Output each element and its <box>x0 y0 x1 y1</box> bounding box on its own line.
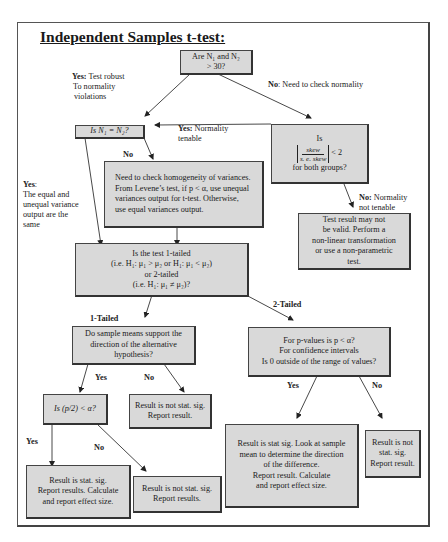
label-no-normality-text2: not tenable <box>359 203 395 212</box>
label-yes-normality-text1: Normality <box>193 124 229 133</box>
node-not-sig-half-p: Result is not stat. sig. Report results. <box>133 476 222 513</box>
label-no-bold: No <box>268 80 278 89</box>
label-no-half-p: No <box>94 443 104 453</box>
node-levene-line2: From Levene’s test, if p < α, use unequa… <box>115 184 249 195</box>
node-sig-one-tailed: Result is stat. sig. Report results. Cal… <box>26 465 131 519</box>
label-yes-normality-bold: Yes: <box>178 124 193 133</box>
node-tailed-line3: or 2-tailed <box>145 270 179 281</box>
node-sig-1-line2: Report results. Calculate <box>38 486 119 497</box>
node-skew-line1: Is <box>317 134 323 145</box>
label-yes-equal-n: Yes: The equal and unequal variance outp… <box>23 180 79 230</box>
node-not-sig-direction: Result is not stat. sig. Report result. <box>129 394 212 429</box>
node-sig-2-line4: Report result. Calculate <box>253 471 331 482</box>
node-not-valid-line1: Test result may not <box>323 215 385 226</box>
node-sig-1-line1: Result is stat. sig. <box>49 476 107 487</box>
label-no-normality: No: Normality not tenable <box>359 193 407 213</box>
label-yes-two-tailed: Yes <box>287 381 299 391</box>
node-levene-line4: use equal variances output. <box>115 205 204 216</box>
node-direction-line2: direction of the alternative <box>90 340 177 351</box>
node-not-sig-1-line2: Report result. <box>148 411 193 422</box>
label-yes-equal-n-text5: same <box>23 220 40 229</box>
node-not-valid-line3: non-linear transformation <box>312 236 396 247</box>
node-tailed-line1: Is the test 1-tailed <box>132 249 190 260</box>
label-no-check-normality: No: Need to check normality <box>268 80 363 90</box>
node-sample-size-line1: Are N₁ and N₂ <box>192 52 240 63</box>
node-half-p: Is (p/2) < α? <box>43 394 108 425</box>
node-two-tailed-line3: Is 0 outside of the range of values? <box>262 357 376 368</box>
node-not-sig-1-line1: Result is not stat. sig. <box>135 401 205 412</box>
node-levene: Need to check homogeneity of variances. … <box>104 161 264 228</box>
label-yes-equal-n-bold: Yes <box>23 180 35 189</box>
label-one-tailed: 1-Tailed <box>90 314 118 324</box>
node-levene-line1: Need to check homogeneity of variances. <box>115 173 251 184</box>
node-equal-n-text: Is N₁ = N₂? <box>90 126 128 137</box>
skew-fraction: skew s. e. skew <box>300 146 326 163</box>
label-yes-direction: Yes <box>95 373 107 383</box>
node-two-tailed-line2: For confidence intervals <box>279 346 359 357</box>
label-no-two-tailed: No <box>372 381 382 391</box>
node-direction-line3: hypothesis? <box>114 350 153 361</box>
label-yes-robust-bold: Yes: <box>72 72 87 81</box>
label-yes-normality-text2: tenable <box>178 134 202 143</box>
node-not-sig-two-tailed: Result is not stat. sig. Report result. <box>365 430 421 478</box>
node-sig-two-tailed: Result is stat sig. Look at sample mean … <box>225 424 359 508</box>
node-sig-2-line5: and report effect size. <box>256 481 327 492</box>
label-yes-robust: Yes: Test robust To normality violations <box>72 72 125 102</box>
node-tailed-line4: (i.e. H₁: μ₁ ≠ μ₂)? <box>133 280 190 291</box>
node-sample-size: Are N₁ and N₂ > 30? <box>180 50 253 75</box>
node-two-tailed-line1: For p-values is p < α? <box>283 336 354 347</box>
node-not-sig-2-line1: Result is not stat. sig. <box>142 484 212 495</box>
node-levene-line3: variances output for t-test. Otherwise, <box>115 194 239 205</box>
skew-absolute-value: skew s. e. skew <box>297 145 329 163</box>
node-not-sig-3-line3: Report result. <box>370 459 415 470</box>
node-sig-2-line2: mean to determine the direction <box>239 450 343 461</box>
node-skew-line3: for both groups? <box>292 163 346 174</box>
skew-numerator: skew <box>302 146 324 155</box>
label-no-normality-text1: Normality <box>372 193 408 202</box>
node-sample-size-line2: > 30? <box>207 62 226 73</box>
node-not-sig-2-line2: Report results. <box>153 494 201 505</box>
node-sig-1-line3: and report effect size. <box>43 497 114 508</box>
label-no-normality-bold: No: <box>359 193 372 202</box>
node-direction: Do sample means support the direction of… <box>72 326 196 365</box>
label-two-tailed: 2-Tailed <box>273 300 301 310</box>
node-not-valid-line4: or use a non-parametric <box>315 246 393 257</box>
node-two-tailed-question: For p-values is p < α? For confidence in… <box>248 327 391 377</box>
node-skew-check: Is skew s. e. skew < 2 for both groups? <box>271 124 369 184</box>
node-sig-2-line1: Result is stat sig. Look at sample <box>237 439 345 450</box>
label-no-equal-n: No <box>123 150 133 160</box>
node-equal-n: Is N₁ = N₂? <box>75 125 145 139</box>
node-not-valid-line5: test. <box>347 257 360 268</box>
node-sig-2-line3: of the difference. <box>264 460 320 471</box>
label-yes-equal-n-text2: The equal and <box>23 190 69 199</box>
node-not-valid-line2: be valid. Perform a <box>323 225 386 236</box>
label-no-text: : Need to check normality <box>278 80 363 89</box>
node-not-valid: Test result may not be valid. Perform a … <box>298 213 411 270</box>
node-not-sig-3-line2: stat. sig. <box>379 448 406 459</box>
label-yes-equal-n-colon: : <box>35 180 37 189</box>
label-yes-robust-text2: To normality <box>72 82 115 91</box>
skew-ratio-formula: skew s. e. skew < 2 <box>297 145 342 163</box>
label-no-direction: No <box>144 373 154 383</box>
label-yes-half-p: Yes <box>26 437 38 447</box>
node-half-p-text: Is (p/2) < α? <box>54 404 96 415</box>
node-tailed-line2: (i.e. H₁: μ₁ > μ₂ or H₁: μ₁ < μ₂) <box>111 259 212 270</box>
node-direction-line1: Do sample means support the <box>85 329 182 340</box>
node-not-sig-3-line1: Result is not <box>372 438 413 449</box>
label-yes-equal-n-text3: unequal variance <box>23 200 79 209</box>
label-yes-equal-n-text4: output are the <box>23 210 68 219</box>
label-yes-robust-text3: violations <box>72 92 106 101</box>
node-tailed: Is the test 1-tailed (i.e. H₁: μ₁ > μ₂ o… <box>75 243 249 297</box>
skew-comparison: < 2 <box>331 148 342 159</box>
label-yes-normality-tenable: Yes: Normality tenable <box>178 124 228 144</box>
label-yes-robust-text1: Test robust <box>87 72 125 81</box>
skew-denominator: s. e. skew <box>300 155 326 163</box>
